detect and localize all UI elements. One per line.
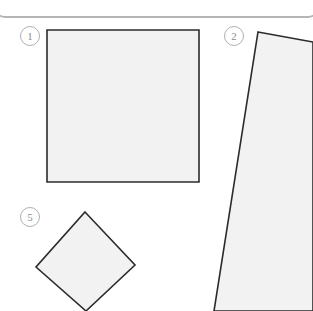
shape-label-1: 1 — [20, 26, 40, 46]
shapes-svg — [0, 0, 313, 311]
shape-label-2: 2 — [224, 26, 244, 46]
shape-square-1[interactable] — [47, 30, 199, 182]
shape-quadrilateral-2[interactable] — [214, 32, 313, 311]
shape-canvas — [0, 0, 313, 311]
shape-label-5: 5 — [20, 207, 40, 227]
shape-diamond-5[interactable] — [36, 212, 135, 311]
worksheet-canvas: 1 2 5 — [0, 0, 313, 311]
